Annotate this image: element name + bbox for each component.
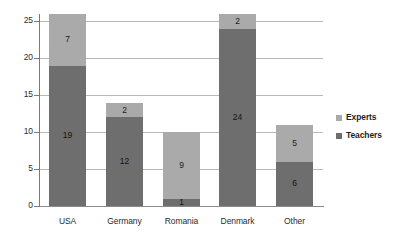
legend-label: Experts (346, 113, 376, 122)
bar-segment-value-label: 9 (179, 161, 184, 170)
bar-group[interactable]: 65 (276, 125, 313, 206)
y-axis-tick (34, 169, 39, 170)
y-axis-tick-label: 10 (5, 127, 33, 136)
bar-segment-value-label: 6 (292, 179, 297, 188)
legend-swatch-icon (336, 133, 342, 139)
bars-layer: 1971221924265 (39, 14, 323, 206)
x-axis-category-label: Germany (96, 216, 153, 226)
bar-group[interactable]: 19 (163, 132, 200, 206)
bar-segment-teachers[interactable]: 1 (163, 199, 200, 206)
x-axis-category-label: Denmark (209, 216, 266, 226)
bar-segment-teachers[interactable]: 19 (49, 66, 86, 206)
x-axis-category-label: USA (39, 216, 96, 226)
bar-segment-teachers[interactable]: 6 (276, 162, 313, 206)
bar-segment-value-label: 12 (120, 157, 129, 166)
bar-segment-value-label: 24 (233, 113, 242, 122)
bar-segment-experts[interactable]: 7 (49, 14, 86, 66)
bar-segment-value-label: 5 (292, 139, 297, 148)
bar-segment-experts[interactable]: 9 (163, 132, 200, 198)
bar-group[interactable]: 197 (49, 14, 86, 206)
y-axis-tick-label: 0 (5, 201, 33, 210)
y-axis-tick (34, 206, 39, 207)
y-axis-tick-label: 25 (5, 16, 33, 25)
y-axis-tick-label: 20 (5, 53, 33, 62)
bar-group[interactable]: 122 (106, 103, 143, 206)
y-axis-tick-label: 5 (5, 164, 33, 173)
bar-segment-value-label: 2 (235, 17, 240, 26)
x-axis-category-label: Romania (153, 216, 210, 226)
bar-segment-value-label: 7 (65, 35, 70, 44)
bar-segment-teachers[interactable]: 12 (106, 117, 143, 206)
bar-group[interactable]: 242 (219, 14, 256, 206)
bar-segment-teachers[interactable]: 24 (219, 29, 256, 206)
legend-label: Teachers (346, 131, 382, 140)
y-axis-tick (34, 58, 39, 59)
y-axis-tick (34, 95, 39, 96)
chart-legend: ExpertsTeachers (336, 110, 398, 146)
y-axis-tick-labels: 0510152025 (0, 0, 33, 248)
bar-segment-experts[interactable]: 2 (106, 103, 143, 118)
y-axis-tick (34, 21, 39, 22)
y-axis-tick (34, 132, 39, 133)
legend-item[interactable]: Experts (336, 110, 398, 125)
bar-segment-experts[interactable]: 2 (219, 14, 256, 29)
stacked-bar-chart: 0510152025 1971221924265 USAGermanyRoman… (0, 0, 401, 248)
bar-segment-experts[interactable]: 5 (276, 125, 313, 162)
bar-segment-value-label: 1 (179, 198, 184, 207)
x-axis-category-labels: USAGermanyRomaniaDenmarkOther (39, 216, 323, 232)
y-axis-tick-label: 15 (5, 90, 33, 99)
bar-segment-value-label: 19 (63, 131, 72, 140)
x-axis-category-label: Other (266, 216, 323, 226)
bar-segment-value-label: 2 (122, 106, 127, 115)
legend-item[interactable]: Teachers (336, 128, 398, 143)
legend-swatch-icon (336, 115, 342, 121)
